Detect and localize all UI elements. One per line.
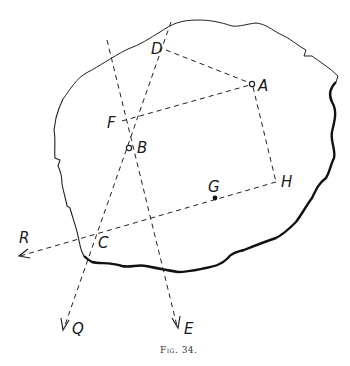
- label-H: H: [281, 175, 292, 190]
- arrowhead-R: [19, 249, 30, 258]
- point-A-marker: [249, 81, 254, 86]
- label-B: B: [137, 141, 147, 156]
- line-F-A: [122, 85, 250, 121]
- point-B-marker: [126, 145, 131, 150]
- line-through-F-B-E: [107, 40, 177, 326]
- lamina-outline-left: [54, 99, 84, 256]
- label-G: G: [208, 180, 220, 195]
- figure-caption: Fig. 34.: [160, 345, 197, 355]
- label-F: F: [107, 116, 116, 131]
- label-R: R: [19, 231, 29, 246]
- label-D: D: [151, 42, 163, 57]
- lamina-outline-thin: [63, 20, 338, 99]
- arrowhead-Q: [61, 318, 69, 330]
- lamina-outline-thick: [84, 82, 336, 272]
- point-G-marker: [213, 196, 218, 201]
- line-A-H: [253, 87, 276, 182]
- line-D-A: [166, 50, 250, 83]
- label-Q: Q: [72, 322, 84, 337]
- label-E: E: [184, 322, 193, 337]
- line-H-R: [20, 182, 276, 256]
- label-C: C: [98, 236, 108, 251]
- label-A: A: [258, 79, 268, 94]
- figure-34-diagram: [0, 0, 350, 366]
- line-D-Q: [64, 22, 171, 328]
